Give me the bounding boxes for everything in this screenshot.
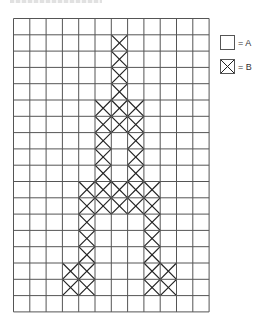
crossed-cell [144, 279, 160, 295]
legend-item-a: = A [220, 35, 251, 50]
crossed-cell [79, 182, 95, 198]
crossed-cell [128, 198, 144, 214]
crossed-cell [144, 247, 160, 263]
crossed-cell [79, 279, 95, 295]
crossed-cell [79, 198, 95, 214]
crossed-cell [128, 182, 144, 198]
crossed-cell [128, 165, 144, 181]
crossed-cell [95, 149, 111, 165]
crossed-cell [79, 214, 95, 230]
crossed-cell [95, 100, 111, 116]
crossed-cell [79, 230, 95, 246]
crossed-cell [144, 263, 160, 279]
crossed-cell [144, 214, 160, 230]
crossed-cell [111, 84, 127, 100]
crossed-cell [160, 263, 176, 279]
crossed-cell [128, 149, 144, 165]
crossed-cell [144, 182, 160, 198]
clipped-caption-text [10, 0, 102, 3]
crossed-cell [62, 263, 78, 279]
crossed-cell [128, 133, 144, 149]
crossed-cell [62, 279, 78, 295]
legend-label-b: = B [238, 62, 252, 72]
crossed-cell [111, 100, 127, 116]
crossed-cell [95, 133, 111, 149]
crossed-cell [95, 198, 111, 214]
crossed-cell [95, 182, 111, 198]
crossed-cell [111, 182, 127, 198]
crossed-cell [144, 198, 160, 214]
crossed-cell [128, 100, 144, 116]
crossed-cell [95, 116, 111, 132]
crossed-cell [111, 116, 127, 132]
crossed-cell [79, 247, 95, 263]
crossed-cell [160, 279, 176, 295]
crossed-cell [79, 263, 95, 279]
crossed-square-icon [220, 59, 235, 74]
crossed-cell [111, 67, 127, 83]
crossed-cell [111, 35, 127, 51]
crossed-cell [111, 198, 127, 214]
crossed-cell [144, 230, 160, 246]
empty-square-icon [220, 35, 235, 50]
pattern-grid [13, 18, 210, 313]
legend-item-b: = B [220, 59, 252, 74]
legend-label-a: = A [238, 38, 251, 48]
crossed-cell [128, 116, 144, 132]
crossed-cell [95, 165, 111, 181]
crossed-cell [111, 51, 127, 67]
